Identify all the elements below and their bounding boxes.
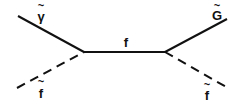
incoming-sfermion-label: f [39, 86, 44, 101]
photino-line [18, 16, 84, 52]
propagator-label: f [124, 35, 129, 50]
outgoing-sfermion-line [165, 52, 228, 88]
gravitino-label: G [212, 8, 222, 23]
incoming-sfermion-line [17, 52, 84, 88]
gravitino-line [165, 19, 227, 52]
feynman-diagram: ~ γ ~ f f ~ G ~ f [0, 0, 245, 108]
photino-label: γ [37, 9, 45, 24]
outgoing-sfermion-label: f [205, 88, 210, 103]
